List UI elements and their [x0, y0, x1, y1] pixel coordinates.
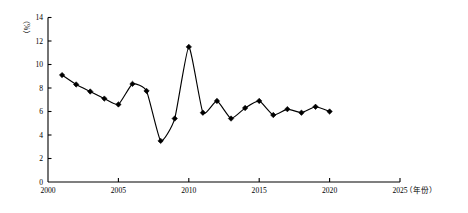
x-tick-label: 2010 [181, 186, 196, 195]
y-tick-label: 8 [39, 84, 43, 93]
data-point-marker [73, 82, 78, 87]
axis-labels: （%）（年份） [23, 16, 437, 195]
y-tick-label: 2 [39, 154, 43, 163]
y-axis-unit-label: （%） [23, 16, 32, 38]
data-point-marker [88, 89, 93, 94]
data-point-marker [313, 104, 318, 109]
y-tick-label: 12 [35, 37, 43, 46]
data-point-marker [158, 138, 163, 143]
y-tick-label: 6 [39, 107, 43, 116]
data-point-marker [299, 110, 304, 115]
data-point-marker [327, 109, 332, 114]
y-axis: 02468101214 [35, 13, 51, 187]
data-point-marker [172, 116, 177, 121]
data-point-marker [186, 44, 191, 49]
x-tick-label: 2005 [111, 186, 126, 195]
data-point-marker [102, 96, 107, 101]
data-point-marker [285, 106, 290, 111]
chart-canvas: 02468101214 200020052010201520202025 （%）… [0, 0, 468, 213]
x-axis: 200020052010201520202025 [40, 178, 407, 195]
line-chart: 02468101214 200020052010201520202025 （%）… [0, 0, 468, 213]
data-point-marker [200, 110, 205, 115]
data-series [59, 44, 332, 143]
y-tick-label: 4 [39, 131, 43, 140]
x-tick-label: 2000 [40, 186, 55, 195]
x-tick-label: 2020 [322, 186, 337, 195]
x-axis-name-label: （年份） [405, 185, 437, 195]
x-tick-label: 2015 [252, 186, 267, 195]
y-tick-label: 14 [35, 13, 43, 22]
y-tick-label: 10 [35, 60, 43, 69]
series-line [62, 47, 330, 141]
